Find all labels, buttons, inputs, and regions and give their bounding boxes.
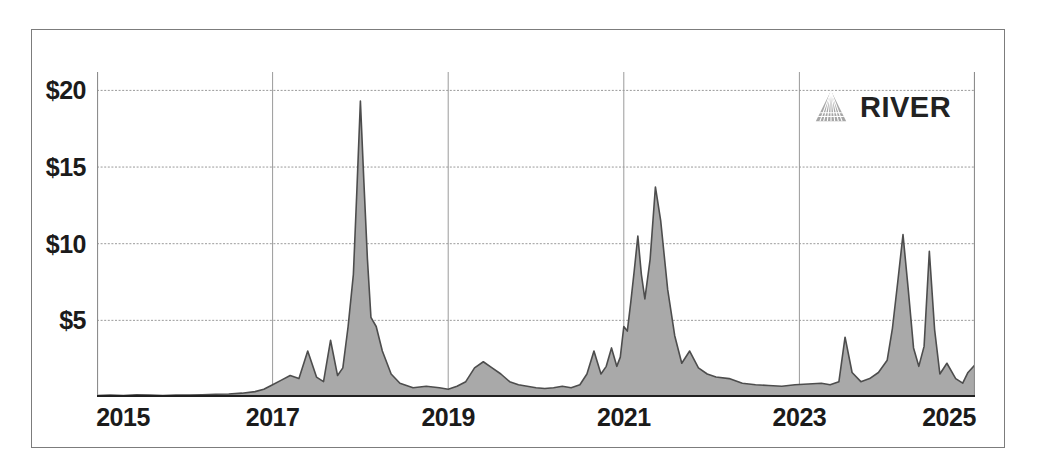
chart-page: $5$10$15$20 201520172019202120232025 xyxy=(0,0,1040,476)
x-tick-label-2025: 2025 xyxy=(922,405,976,430)
river-delta-triangle-icon xyxy=(812,88,850,126)
brand-logo: RIVER xyxy=(812,88,951,126)
x-tick-label-2021: 2021 xyxy=(597,405,651,430)
x-tick-label-2015: 2015 xyxy=(96,405,150,430)
x-tick-label-2017: 2017 xyxy=(246,405,300,430)
brand-wordmark: RIVER xyxy=(860,93,951,122)
x-tick-label-2023: 2023 xyxy=(773,405,827,430)
x-tick-label-2019: 2019 xyxy=(421,405,475,430)
x-axis-tick-labels: 201520172019202120232025 xyxy=(0,0,1040,476)
